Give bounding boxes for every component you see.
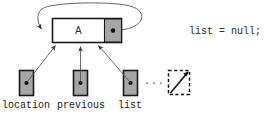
diagram-canvas: A ... location previous list list = null… bbox=[0, 0, 269, 118]
ellipsis-dots: ... bbox=[144, 76, 165, 87]
node-data-label: A bbox=[75, 25, 82, 36]
variable-box-list bbox=[124, 71, 138, 96]
variable-label-location: location bbox=[2, 100, 50, 111]
code-statement: list = null; bbox=[189, 26, 261, 37]
variable-label-previous: previous bbox=[57, 100, 105, 111]
pointer-arrow-location bbox=[28, 46, 56, 82]
variable-label-list: list bbox=[118, 100, 142, 111]
variable-box-location bbox=[20, 71, 34, 96]
pointer-arrow-list bbox=[99, 46, 130, 82]
null-box bbox=[169, 71, 190, 95]
node-A bbox=[53, 19, 122, 43]
